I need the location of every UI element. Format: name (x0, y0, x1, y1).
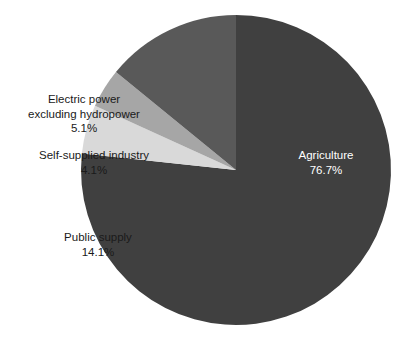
slice-label-electric-power-line1: Electric power (14, 92, 154, 107)
slice-label-agriculture-line1: Agriculture (268, 148, 384, 163)
slice-label-self-supplied-industry: Self-supplied industry 4.1% (20, 148, 168, 177)
slice-label-public-supply-value: 14.1% (38, 245, 158, 260)
slice-label-electric-power: Electric power excluding hydropower 5.1% (14, 92, 154, 136)
slice-label-self-supplied-industry-line1: Self-supplied industry (20, 148, 168, 163)
slice-label-electric-power-value: 5.1% (14, 121, 154, 136)
slice-label-agriculture-value: 76.7% (268, 163, 384, 178)
pie-chart-figure: Electric power excluding hydropower 5.1%… (0, 0, 402, 339)
slice-label-electric-power-line2: excluding hydropower (14, 107, 154, 122)
slice-label-public-supply-line1: Public supply (38, 230, 158, 245)
slice-label-agriculture: Agriculture 76.7% (268, 148, 384, 177)
slice-label-self-supplied-industry-value: 4.1% (20, 163, 168, 178)
slice-label-public-supply: Public supply 14.1% (38, 230, 158, 259)
